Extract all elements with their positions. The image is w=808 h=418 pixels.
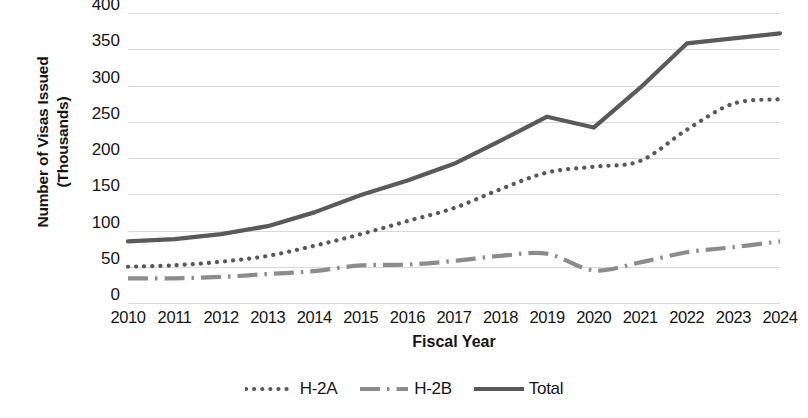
y-tick-label: 200 xyxy=(76,141,120,158)
legend-label: H-2B xyxy=(414,380,452,397)
y-tick-label: 150 xyxy=(76,177,120,194)
y-tick-label: 400 xyxy=(76,0,120,13)
legend-label: H-2A xyxy=(300,380,338,397)
y-tick-label: 100 xyxy=(76,214,120,231)
legend-item-h-2b[interactable]: H-2B xyxy=(359,380,452,397)
line-chart: Number of Visas Issued (Thousands) 05010… xyxy=(0,0,808,418)
dotted-line-swatch xyxy=(245,383,295,395)
legend-label: Total xyxy=(529,380,563,397)
series-line-h-2a xyxy=(128,99,780,266)
x-axis-title: Fiscal Year xyxy=(128,333,780,351)
y-tick-label: 250 xyxy=(76,105,120,122)
y-axis-tick-labels: 050100150200250300350400 xyxy=(72,5,120,295)
y-tick-label: 50 xyxy=(76,250,120,267)
y-tick-label: 350 xyxy=(76,32,120,49)
y-axis-title: Number of Visas Issued (Thousands) xyxy=(33,0,73,287)
y-axis-title-line-1: Number of Visas Issued xyxy=(33,0,53,287)
y-tick-label: 300 xyxy=(76,69,120,86)
legend-item-total[interactable]: Total xyxy=(474,380,563,397)
legend-item-h-2a[interactable]: H-2A xyxy=(245,380,338,397)
gridline xyxy=(128,303,780,304)
x-axis-tick-labels: 2010201120122013201420152016201720182019… xyxy=(128,307,780,329)
x-tick-label: 2024 xyxy=(751,307,808,327)
y-tick-label: 0 xyxy=(76,286,120,303)
series-lines xyxy=(128,13,780,303)
solid-line-swatch xyxy=(474,383,524,395)
chart-legend: H-2AH-2BTotal xyxy=(0,380,808,397)
y-axis-title-line-2: (Thousands) xyxy=(53,0,73,287)
plot-wrapper xyxy=(128,8,780,308)
dash-dot-line-swatch xyxy=(359,383,409,395)
